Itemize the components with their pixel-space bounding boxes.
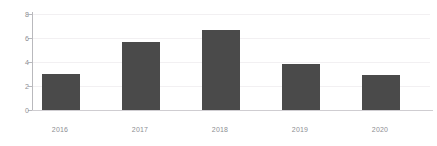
bar-2018 [202,30,240,110]
gridline-8 [32,14,430,15]
x-tick-label-2020: 2020 [361,126,399,133]
plot-area [32,14,430,110]
bar-2017 [122,42,160,110]
y-tick-label-0: 0 [11,107,29,114]
y-tick-label-2: 2 [11,83,29,90]
bar-2019 [282,64,320,110]
y-tick-label-6: 6 [11,35,29,42]
y-tick-label-8: 8 [11,11,29,18]
bar-chart: 0 2 4 6 8 2016 2017 2018 2019 2020 [0,0,437,146]
bar-2020 [362,75,400,110]
x-tick-label-2016: 2016 [41,126,79,133]
x-axis-line [32,110,433,111]
bar-2016 [42,74,80,110]
x-tick-label-2019: 2019 [281,126,319,133]
y-tick-label-4: 4 [11,59,29,66]
x-tick-label-2017: 2017 [121,126,159,133]
y-axis-line [32,12,33,111]
x-tick-label-2018: 2018 [201,126,239,133]
